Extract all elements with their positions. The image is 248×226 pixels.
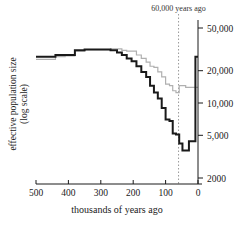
x-axis-title: thousands of years ago [71,204,162,215]
y-tick-label-50000: 50,000 [207,24,233,34]
x-tick-label-400: 400 [61,188,76,198]
y-axis-title: effective population size(log scale) [8,57,30,150]
y-axis-title-line2: (log scale) [19,84,30,124]
y-tick-label-2000: 2000 [207,174,226,184]
x-tick-label-200: 200 [126,188,141,198]
x-tick-label-300: 300 [94,188,109,198]
chart-figure: 60,000 years ago5004003002001000thousand… [0,0,248,226]
x-tick-label-0: 0 [196,188,201,198]
x-tick-label-500: 500 [29,188,44,198]
y-tick-label-5000: 5,000 [207,131,229,141]
population-curve-dark [36,50,198,151]
y-tick-label-20000: 20,000 [207,66,233,76]
x-tick-label-100: 100 [158,188,173,198]
annotation-label-60k: 60,000 years ago [151,4,205,13]
population-history-step-chart: 60,000 years ago5004003002001000thousand… [0,0,248,226]
y-axis-title-line1: effective population size [8,57,18,150]
y-tick-label-10000: 10,000 [207,99,233,109]
